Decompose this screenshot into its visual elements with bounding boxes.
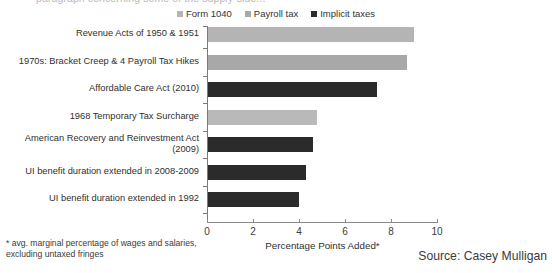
legend-item: Implicit taxes — [311, 8, 375, 19]
x-axis-tick-label: 6 — [342, 226, 348, 237]
x-axis-tick-label: 8 — [388, 226, 394, 237]
category-label: American Recovery and Reinvestment Act (… — [0, 133, 199, 154]
bar[interactable] — [208, 165, 306, 180]
x-axis-tick — [299, 219, 300, 223]
chart-plot-area: Revenue Acts of 1950 & 19511970s: Bracke… — [0, 26, 552, 226]
y-axis-tick — [203, 76, 207, 77]
legend-item-label: Form 1040 — [186, 8, 232, 19]
x-axis-tick — [207, 219, 208, 223]
legend-item-label: Implicit taxes — [320, 8, 375, 19]
x-axis-tick — [253, 219, 254, 223]
y-axis-tick — [203, 131, 207, 132]
category-label: Revenue Acts of 1950 & 1951 — [0, 28, 199, 38]
y-axis-tick — [203, 213, 207, 214]
category-label: 1970s: Bracket Creep & 4 Payroll Tax Hik… — [0, 56, 199, 66]
chart-legend: Form 1040Payroll taxImplicit taxes — [0, 8, 552, 19]
y-axis-tick — [203, 26, 207, 27]
bar[interactable] — [208, 55, 407, 70]
x-axis-tick-label: 2 — [250, 226, 256, 237]
y-axis-tick — [203, 158, 207, 159]
legend-item: Payroll tax — [245, 8, 298, 19]
source-credit: Source: Casey Mulligan — [418, 249, 547, 263]
category-label: Affordable Care Act (2010) — [0, 83, 199, 93]
category-label: UI benefit duration extended in 1992 — [0, 193, 199, 203]
bar[interactable] — [208, 137, 313, 152]
y-axis-tick — [203, 103, 207, 104]
x-axis-tick-label: 10 — [431, 226, 442, 237]
square-swatch-icon — [311, 11, 317, 17]
bar[interactable] — [208, 82, 377, 97]
x-axis-line — [207, 222, 438, 223]
y-axis-tick — [203, 186, 207, 187]
x-axis-title: Percentage Points Added* — [207, 240, 438, 251]
chart-footnote: * avg. marginal percentage of wages and … — [6, 238, 221, 259]
y-axis-tick — [203, 48, 207, 49]
clipped-title-sliver: paragraph concerning some of the supply-… — [0, 0, 552, 7]
clipped-title-text: paragraph concerning some of the supply-… — [36, 0, 265, 4]
bar[interactable] — [208, 192, 299, 207]
square-swatch-icon — [177, 11, 183, 17]
legend-item: Form 1040 — [177, 8, 232, 19]
x-axis-tick — [437, 219, 438, 223]
x-axis-tick — [391, 219, 392, 223]
bar[interactable] — [208, 110, 317, 125]
bar[interactable] — [208, 27, 414, 42]
square-swatch-icon — [245, 11, 251, 17]
x-axis-tick-label: 4 — [296, 226, 302, 237]
category-label: 1968 Temporary Tax Surcharge — [0, 111, 199, 121]
legend-item-label: Payroll tax — [254, 8, 298, 19]
category-label: UI benefit duration extended in 2008-200… — [0, 166, 199, 176]
category-axis-labels: Revenue Acts of 1950 & 19511970s: Bracke… — [0, 26, 203, 222]
x-axis-tick-label: 0 — [204, 226, 210, 237]
x-axis-tick — [345, 219, 346, 223]
